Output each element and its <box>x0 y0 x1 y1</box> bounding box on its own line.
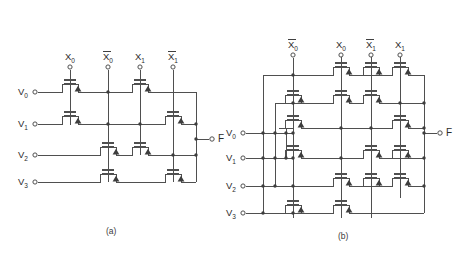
label-b-x1bar: X1 <box>366 39 376 52</box>
label-b-v3: V3 <box>226 207 236 220</box>
panel-b: F V0 V1 V2 V3 <box>226 39 452 241</box>
label-b-v2: V2 <box>226 180 236 193</box>
input-terminal-b-x0 <box>339 53 343 57</box>
panel-a-transistors <box>56 72 187 182</box>
panel-b-left-bus <box>263 75 297 213</box>
panel-b-column-rails <box>293 58 400 218</box>
label-a-x0: X0 <box>65 51 75 64</box>
caption-b: (b) <box>338 231 349 241</box>
label-b-x0bar: X0 <box>288 39 298 52</box>
input-terminal-b-x0bar <box>291 53 295 57</box>
panel-a-row-labels: V0 V1 V2 V3 <box>18 86 37 189</box>
panel-b-column-labels: X0 X0 X1 X1 <box>288 39 405 57</box>
input-terminal-b-v1 <box>241 156 245 160</box>
input-terminal-a-v1 <box>33 122 37 126</box>
input-terminal-a-x0bar <box>106 65 110 69</box>
label-a-v1: V1 <box>18 118 28 131</box>
panel-a-column-labels: X0 X0 X1 X1 <box>65 51 178 69</box>
panel-a-row-rails <box>38 92 196 182</box>
panel-b-output-bus: F <box>424 75 452 213</box>
panel-b-transistors <box>279 55 414 213</box>
input-terminal-a-x1 <box>138 65 142 69</box>
label-b-v0: V0 <box>226 127 236 140</box>
input-terminal-b-v3 <box>241 211 245 215</box>
panel-a-column-rails <box>70 70 173 182</box>
label-a-x0bar: X0 <box>103 51 113 64</box>
input-terminal-b-v0 <box>241 131 245 135</box>
label-a-v3: V3 <box>18 176 28 189</box>
output-terminal-b <box>438 131 442 135</box>
panel-a: X0 X0 X1 X1 V0 V1 <box>18 51 224 236</box>
label-a-v2: V2 <box>18 149 28 162</box>
input-terminal-b-x1 <box>398 53 402 57</box>
input-terminal-a-x1bar <box>171 65 175 69</box>
figure-root: X0 X0 X1 X1 V0 V1 <box>0 0 457 254</box>
panel-b-row-inputs: V0 V1 V2 V3 <box>226 127 293 220</box>
input-terminal-b-v2 <box>241 184 245 188</box>
label-b-output: F <box>446 127 452 138</box>
output-terminal-a <box>210 137 214 141</box>
label-a-x1bar: X1 <box>168 51 178 64</box>
input-terminal-a-v0 <box>33 90 37 94</box>
label-a-output: F <box>218 133 224 144</box>
label-b-v1: V1 <box>226 152 236 165</box>
input-terminal-b-x1bar <box>369 53 373 57</box>
label-a-x1: X1 <box>135 51 145 64</box>
panel-a-output-bus <box>196 92 214 182</box>
input-terminal-a-x0 <box>68 65 72 69</box>
input-terminal-a-v2 <box>33 153 37 157</box>
caption-a: (a) <box>106 226 117 236</box>
label-b-x0: X0 <box>336 39 346 52</box>
label-b-x1: X1 <box>395 39 405 52</box>
input-terminal-a-v3 <box>33 180 37 184</box>
label-a-v0: V0 <box>18 86 28 99</box>
circuit-figure: X0 X0 X1 X1 V0 V1 <box>0 0 457 254</box>
